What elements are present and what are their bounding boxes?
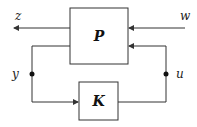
z-label: z [14, 9, 22, 23]
u-label: u [176, 67, 184, 81]
feedback-diagram: P K z w y u [0, 0, 197, 127]
plant-label: P [93, 28, 105, 44]
u-signal-path [118, 46, 166, 102]
controller-block-k: K [79, 82, 118, 120]
y-junction-dot [30, 72, 35, 77]
plant-block-p: P [70, 8, 128, 64]
u-junction-dot [164, 72, 169, 77]
w-label: w [180, 9, 191, 23]
y-label: y [11, 67, 19, 81]
y-signal-path [32, 46, 78, 102]
controller-label: K [91, 93, 105, 109]
